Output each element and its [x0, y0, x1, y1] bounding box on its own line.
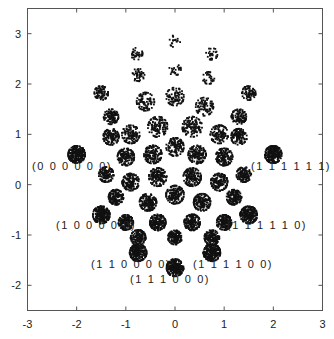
- x-tick-label: 3: [319, 318, 325, 330]
- cluster-label: (1 1 1 0 0 0): [130, 273, 210, 285]
- x-tick-label: 2: [270, 318, 276, 330]
- y-tick-label: 3: [15, 28, 21, 40]
- y-tick-label: 2: [15, 78, 21, 90]
- x-tick-label: -1: [121, 318, 131, 330]
- cluster-label: (0 0 0 0 0 0): [32, 160, 112, 172]
- data-points: [67, 35, 282, 277]
- x-tick-label: -2: [72, 318, 82, 330]
- cluster-label: (1 0 0 0 0 0): [56, 219, 136, 231]
- cluster-label: (1 1 0 0 0 0): [91, 258, 171, 270]
- cluster-label: (1 1 1 1 0 0): [193, 258, 273, 270]
- x-tick-label: -3: [23, 318, 33, 330]
- x-tick-label: 0: [172, 318, 178, 330]
- y-tick-label: 1: [15, 128, 21, 140]
- y-tick-label: -2: [11, 279, 21, 291]
- y-tick-label: -1: [11, 229, 21, 241]
- x-tick-label: 1: [221, 318, 227, 330]
- cluster-label: (1 1 1 1 1 0): [227, 219, 307, 231]
- y-tick-label: 0: [15, 179, 21, 191]
- cluster-label: (1 1 1 1 1 1): [251, 160, 331, 172]
